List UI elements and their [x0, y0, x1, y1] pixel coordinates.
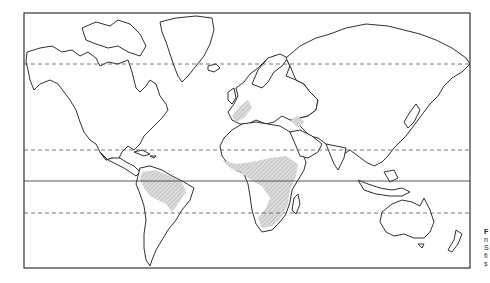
iceland	[208, 64, 220, 72]
india	[326, 144, 346, 170]
caribbean-islands	[134, 150, 156, 158]
new-zealand	[448, 230, 462, 252]
world-map-figure	[0, 0, 490, 283]
indonesia	[358, 170, 410, 196]
north-america	[26, 46, 168, 160]
caption-line-2: n	[484, 236, 490, 244]
madagascar	[292, 194, 300, 214]
tasmania	[418, 244, 424, 248]
greenland	[160, 16, 214, 82]
map-content	[26, 16, 470, 266]
caption-line-1: F	[484, 228, 490, 236]
caption-line-4: fi	[484, 252, 490, 260]
arctic-archipelago	[82, 20, 146, 56]
caption-line-5: s	[484, 260, 490, 268]
side-caption: F n S fi s	[484, 228, 490, 268]
australia	[380, 198, 434, 238]
caption-line-3: S	[484, 244, 490, 252]
world-map-svg	[0, 0, 490, 283]
